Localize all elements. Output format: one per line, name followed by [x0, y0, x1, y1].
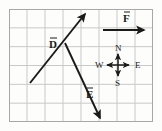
vector-label-f: F [123, 9, 130, 25]
grid-lines [9, 9, 153, 122]
vector-arrow-e [65, 43, 100, 118]
vector-label-d: D [49, 35, 57, 51]
compass-label-south: S [115, 79, 120, 88]
vector-label-e: E [86, 85, 93, 101]
compass-rose-arrows [107, 54, 129, 76]
vector-label-d-letter: D [49, 38, 57, 50]
vector-grid-diagram: D E F N S E W [0, 0, 162, 131]
compass-label-east: E [135, 61, 141, 70]
vector-label-e-letter: E [86, 88, 93, 100]
compass-label-north: N [115, 44, 122, 53]
vector-arrow-d [30, 14, 85, 83]
compass-label-west: W [95, 61, 104, 70]
vector-label-f-letter: F [123, 12, 130, 24]
